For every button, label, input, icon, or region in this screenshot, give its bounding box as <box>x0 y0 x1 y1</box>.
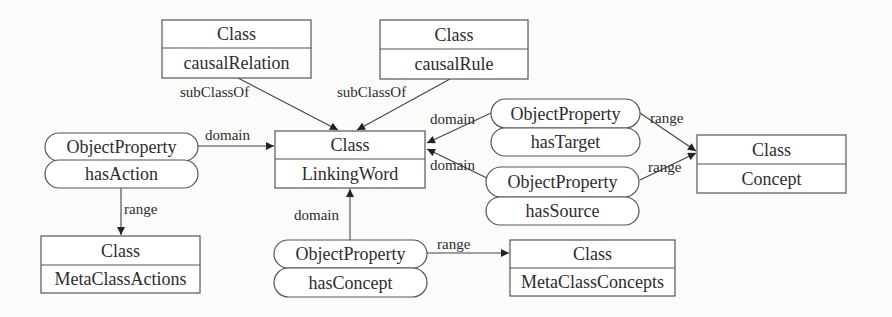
property-name: hasConcept <box>309 273 393 293</box>
property-hasaction[interactable]: ObjectProperty hasAction <box>45 133 198 188</box>
class-metaclassactions[interactable]: Class MetaClassActions <box>41 236 200 293</box>
class-name: MetaClassConcepts <box>521 272 664 292</box>
class-stereotype: Class <box>434 25 473 45</box>
class-stereotype: Class <box>752 140 791 160</box>
class-metaclassconcepts[interactable]: Class MetaClassConcepts <box>510 240 675 296</box>
label-hastarget-domain: domain <box>430 111 475 127</box>
label-hasconcept-range: range <box>437 236 471 252</box>
class-linkingword[interactable]: Class LinkingWord <box>275 131 425 188</box>
label-hasaction-range: range <box>124 201 158 217</box>
label-causalrule-subclassof: subClassOf <box>337 84 406 100</box>
property-stereotype: ObjectProperty <box>67 137 177 157</box>
label-causalrelation-subclassof: subClassOf <box>180 84 249 100</box>
label-hassource-domain: domain <box>430 157 475 173</box>
property-stereotype: ObjectProperty <box>511 104 621 124</box>
class-stereotype: Class <box>101 241 140 261</box>
class-name: LinkingWord <box>302 164 399 184</box>
property-hassource[interactable]: ObjectProperty hasSource <box>486 167 639 225</box>
class-name: causalRule <box>415 54 494 74</box>
label-hastarget-range: range <box>650 110 684 126</box>
property-stereotype: ObjectProperty <box>296 244 406 264</box>
class-stereotype: Class <box>573 244 612 264</box>
property-name: hasAction <box>85 164 158 184</box>
class-stereotype: Class <box>330 135 369 155</box>
property-name: hasSource <box>526 201 600 221</box>
class-concept[interactable]: Class Concept <box>697 135 846 193</box>
label-hasaction-domain: domain <box>205 127 250 143</box>
property-name: hasTarget <box>531 132 600 152</box>
class-causalrule[interactable]: Class causalRule <box>380 20 528 79</box>
property-hastarget[interactable]: ObjectProperty hasTarget <box>491 99 640 156</box>
class-stereotype: Class <box>217 24 256 44</box>
class-causalrelation[interactable]: Class causalRelation <box>162 20 311 78</box>
class-name: causalRelation <box>184 53 290 73</box>
ontology-diagram: subClassOf subClassOf domain range domai… <box>0 0 892 317</box>
class-name: MetaClassActions <box>55 269 187 289</box>
edge-causalrelation-subclassof <box>238 78 338 130</box>
label-hassource-range: range <box>648 159 682 175</box>
label-hasconcept-domain: domain <box>294 207 339 223</box>
property-stereotype: ObjectProperty <box>508 172 618 192</box>
property-hasconcept[interactable]: ObjectProperty hasConcept <box>274 240 427 297</box>
class-name: Concept <box>742 169 802 189</box>
